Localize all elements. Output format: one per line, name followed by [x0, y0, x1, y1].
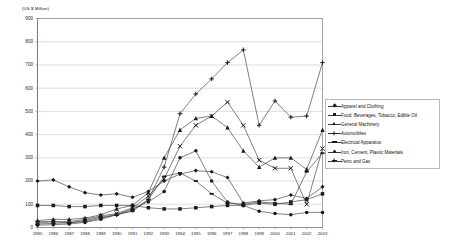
- x-tick-1990: 1990: [112, 231, 122, 236]
- cross-marker-icon: [328, 129, 341, 138]
- x-tick-1998: 1998: [239, 231, 249, 236]
- x-tick-1999: 1999: [254, 231, 264, 236]
- export-value-line-chart: (US $ Million) 0100200300400500600700800…: [0, 0, 453, 249]
- x-tick-1992: 1992: [144, 231, 154, 236]
- legend-item-4[interactable]: Automobiles: [328, 129, 436, 138]
- x-tick-1996: 1996: [207, 231, 217, 236]
- y-tick-300: 300: [17, 155, 33, 160]
- x-tick-1995: 1995: [191, 231, 201, 236]
- x-tick-1985: 1985: [33, 231, 43, 236]
- x-tick-1994: 1994: [175, 231, 185, 236]
- bar-marker-icon: [328, 138, 341, 147]
- legend-item-label: Iron, Cement, Plastic Materials: [341, 148, 403, 157]
- y-tick-400: 400: [17, 132, 33, 137]
- legend-item-6[interactable]: Iron, Cement, Plastic Materials: [328, 147, 436, 156]
- legend-item-label: Automobiles: [341, 129, 366, 138]
- legend-item-2[interactable]: Food, Beverages, Tobacco, Edible Oil: [328, 111, 436, 120]
- x-tick-1993: 1993: [159, 231, 169, 236]
- x-tick-1997: 1997: [223, 231, 233, 236]
- legend-item-3[interactable]: General Machinery: [328, 120, 436, 129]
- x-tick-2002: 2002: [302, 231, 312, 236]
- y-tick-600: 600: [17, 86, 33, 91]
- legend-item-1[interactable]: Apparel and Clothing: [328, 102, 436, 111]
- y-tick-500: 500: [17, 109, 33, 114]
- x-tick-1987: 1987: [64, 231, 74, 236]
- y-tick-0: 0: [17, 225, 33, 230]
- legend-item-label: Electrical Apparatus: [341, 138, 381, 147]
- circle-marker-icon: [328, 148, 341, 157]
- legend-item-5[interactable]: Electrical Apparatus: [328, 138, 436, 147]
- x-tick-2000: 2000: [270, 231, 280, 236]
- legend-item-label: Apparel and Clothing: [341, 102, 383, 111]
- y-tick-700: 700: [17, 62, 33, 67]
- y-tick-100: 100: [17, 202, 33, 207]
- square-marker-icon: [328, 111, 341, 120]
- legend-item-label: Food, Beverages, Tobacco, Edible Oil: [341, 111, 417, 120]
- triangle-marker-icon: [328, 120, 341, 129]
- x-tick-1988: 1988: [80, 231, 90, 236]
- x-tick-1991: 1991: [128, 231, 138, 236]
- x-tick-2003: 2003: [318, 231, 328, 236]
- legend-item-label: Petro and Gas: [341, 157, 370, 166]
- y-tick-900: 900: [17, 16, 33, 21]
- y-tick-800: 800: [17, 39, 33, 44]
- x-tick-1986: 1986: [49, 231, 59, 236]
- legend-item-label: General Machinery: [341, 120, 379, 129]
- y-tick-200: 200: [17, 178, 33, 183]
- diamond-marker-icon: [328, 102, 341, 111]
- plus-marker-icon: [328, 157, 341, 166]
- chart-legend: Apparel and ClothingFood, Beverages, Tob…: [325, 99, 440, 169]
- x-tick-1989: 1989: [96, 231, 106, 236]
- x-tick-2001: 2001: [286, 231, 296, 236]
- legend-item-7[interactable]: Petro and Gas: [328, 157, 436, 166]
